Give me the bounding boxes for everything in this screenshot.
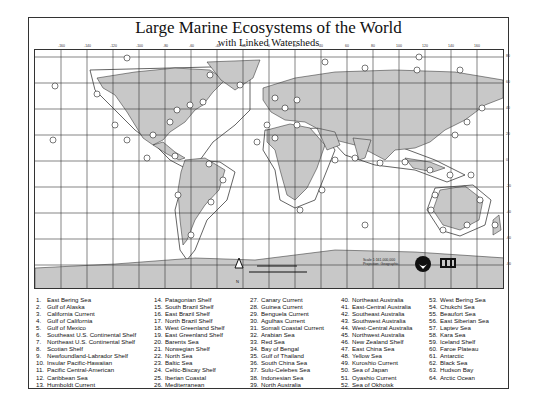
legend-item: 56.East Siberian Sea	[429, 317, 489, 324]
legend-item: 18.West Greenland Shelf	[154, 324, 225, 331]
legend-column-4: 40.Northeast Australia 41.East-Central A…	[341, 296, 413, 388]
legend-item: 40.Northeast Australia	[341, 296, 413, 303]
legend-item: 52.Sea of Okhotsk	[341, 381, 413, 388]
legend-item: 48.Yellow Sea	[341, 352, 413, 359]
legend-item: 49.Kuroshio Current	[341, 359, 413, 366]
legend-item: 5.Gulf of Mexico	[36, 324, 136, 331]
legend-item: 19.East Greenland Shelf	[154, 331, 225, 338]
legend-item: 61.Antarctic	[429, 352, 489, 359]
legend-item: 62.Black Sea	[429, 359, 489, 366]
legend-item: 54.Chukchi Sea	[429, 303, 489, 310]
legend-item: 37.Sulu-Celebes Sea	[250, 366, 324, 373]
legend-item: 35.Gulf of Thailand	[250, 352, 324, 359]
university-logo	[440, 258, 456, 268]
legend-item: 14.Patagonian Shelf	[154, 296, 225, 303]
world-map: Scale 1:161,000,000 Projection: Geograph…	[34, 49, 504, 289]
legend-item: 46.New Zealand Shelf	[341, 338, 413, 345]
legend-item: 39.North Australia	[250, 381, 324, 388]
legend-item: 12.Caribbean Sea	[36, 374, 136, 381]
legend-item: 3.California Current	[36, 310, 136, 317]
legend-item: 33.Red Sea	[250, 338, 324, 345]
legend-column-5: 53.West Bering Sea 54.Chukchi Sea 55.Bea…	[429, 296, 489, 381]
legend-item: 34.Bay of Bengal	[250, 345, 324, 352]
legend-item: 38.Indonesian Sea	[250, 374, 324, 381]
legend-item: 28.Guinea Current	[250, 303, 324, 310]
legend-item: 6.Southeast U.S. Continental Shelf	[36, 331, 136, 338]
legend-item: 51.Oyashio Current	[341, 374, 413, 381]
legend-item: 23.Baltic Sea	[154, 359, 225, 366]
legend-item: 16.East Brazil Shelf	[154, 310, 225, 317]
legend-item: 20.Barents Sea	[154, 338, 225, 345]
legend-item: 32.Arabian Sea	[250, 331, 324, 338]
legend-item: 22.North Sea	[154, 352, 225, 359]
legend-item: 24.Celtic-Biscay Shelf	[154, 366, 225, 373]
legend-item: 7.Northeast U.S. Continental Shelf	[36, 338, 136, 345]
map-title: Large Marine Ecosystems of the World	[28, 19, 509, 37]
legend-item: 55.Beaufort Sea	[429, 310, 489, 317]
legend-item: 26.Mediterranean	[154, 381, 225, 388]
scale-label: Scale 1:161,000,000 Projection: Geograph…	[363, 258, 399, 266]
legend-item: 10.Insular Pacific-Hawaiian	[36, 359, 136, 366]
legend-item: 50.Sea of Japan	[341, 366, 413, 373]
legend-column-2: 14.Patagonian Shelf 15.South Brazil Shel…	[154, 296, 225, 388]
legend-item: 25.Iberian Coastal	[154, 374, 225, 381]
legend-item: 43.Southwest Australia	[341, 317, 413, 324]
legend-item: 41.East-Central Australia	[341, 303, 413, 310]
legend-item: 30.Agulhas Current	[250, 317, 324, 324]
legend-item: 2.Gulf of Alaska	[36, 303, 136, 310]
legend-item: 45.Northwest Australia	[341, 331, 413, 338]
legend-item: 17.North Brazil Shelf	[154, 317, 225, 324]
legend-item: 59.Iceland Shelf	[429, 338, 489, 345]
legend-item: 15.South Brazil Shelf	[154, 303, 225, 310]
legend-item: 4.Gulf of California	[36, 317, 136, 324]
legend-column-1: 1.East Bering Sea 2.Gulf of Alaska 3.Cal…	[36, 296, 136, 388]
world-map-graphic	[35, 50, 504, 289]
legend-item: 1.East Bering Sea	[36, 296, 136, 303]
legend-item: 44.West-Central Australia	[341, 324, 413, 331]
legend-item: 42.Southeast Australia	[341, 310, 413, 317]
legend-item: 63.Hudson Bay	[429, 366, 489, 373]
legend-item: 64.Arctic Ocean	[429, 374, 489, 381]
legend-item: 9.Newfoundland-Labrador Shelf	[36, 352, 136, 359]
legend-item: 58.Kara Sea	[429, 331, 489, 338]
legend-item: 60.Faroe Plateau	[429, 345, 489, 352]
legend-item: 21.Norwegian Shelf	[154, 345, 225, 352]
legend-item: 31.Somali Coastal Current	[250, 324, 324, 331]
legend-item: 8.Scotian Shelf	[36, 345, 136, 352]
legend-item: 13.Humboldt Current	[36, 381, 136, 388]
legend-item: 27.Canary Current	[250, 296, 324, 303]
legend-item: 57.Laptev Sea	[429, 324, 489, 331]
noaa-logo	[415, 256, 431, 272]
legend-item: 29.Benguela Current	[250, 310, 324, 317]
north-label: N	[236, 279, 239, 284]
legend-item: 47.East China Sea	[341, 345, 413, 352]
legend-item: 36.South China Sea	[250, 359, 324, 366]
legend-column-3: 27.Canary Current 28.Guinea Current 29.B…	[250, 296, 324, 388]
legend-item: 53.West Bering Sea	[429, 296, 489, 303]
legend-item: 11.Pacific Central-American	[36, 366, 136, 373]
